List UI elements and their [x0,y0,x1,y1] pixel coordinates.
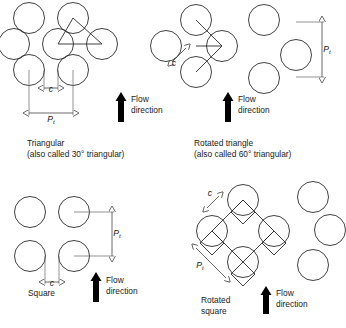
flow-arrow-shaft [118,100,124,122]
flow-arrow-shaft [93,280,99,302]
tube-layout-diagram: cPtFlowdirectionTriangular(also called 3… [0,0,346,328]
flow-arrow-shaft [263,294,269,314]
dimension-label-clearance: c [50,278,55,288]
dimension-label-clearance: c [172,58,177,68]
panel-caption-square: Square [28,288,55,298]
flow-arrow-shaft [225,100,231,122]
panel-caption-rotated-square: Rotatedsquare [201,295,231,316]
tube-layout-figure: cPtFlowdirectionTriangular(also called 3… [0,0,346,328]
dimension-label-clearance: c [49,84,54,94]
dimension-label-clearance: c [208,188,213,198]
